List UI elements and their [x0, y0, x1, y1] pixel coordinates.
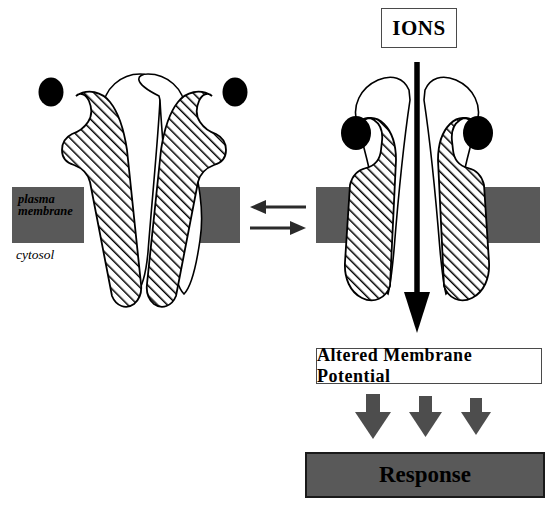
bound-ligand-right [463, 116, 493, 150]
closed-channel-panel [12, 74, 248, 307]
altered-membrane-potential-box: Altered Membrane Potential [316, 348, 542, 384]
plasma-membrane-label: plasma membrane [18, 193, 73, 217]
response-box: Response [305, 452, 545, 498]
diagram-canvas [0, 0, 554, 509]
response-arrow-3 [461, 398, 491, 435]
ions-label: IONS [392, 16, 445, 41]
free-ligand-left [39, 78, 64, 107]
equilibrium-arrows [250, 200, 306, 235]
bound-ligand-left [341, 116, 371, 150]
response-arrow-1 [355, 394, 391, 439]
cytosol-label: cytosol [16, 247, 54, 263]
ion-flux-arrow-head [404, 292, 430, 333]
ion-channel-diagram: IONS plasma membrane cytosol Altered Mem… [0, 0, 554, 509]
plasma-membrane-label-line2: membrane [18, 205, 73, 217]
response-arrows [355, 394, 491, 439]
response-arrow-2 [409, 396, 442, 437]
free-ligand-right [223, 78, 248, 107]
ions-label-box: IONS [381, 8, 457, 48]
response-label: Response [379, 462, 471, 488]
open-channel-panel [316, 62, 540, 333]
altered-membrane-potential-label: Altered Membrane Potential [317, 345, 541, 387]
equilibrium-arrow-right-head [290, 221, 306, 235]
equilibrium-arrow-left-head [250, 200, 266, 214]
